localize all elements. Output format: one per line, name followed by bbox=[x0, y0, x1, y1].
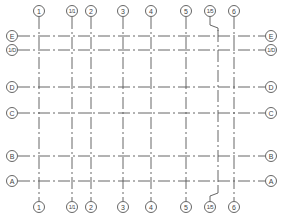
axis-label: 2 bbox=[89, 204, 93, 211]
axis-label: 1 bbox=[37, 204, 41, 211]
axis-bubble-left-d: D bbox=[7, 82, 18, 93]
axis-label: 5 bbox=[184, 8, 188, 15]
axis-bubble-top-5: 5 bbox=[181, 6, 192, 17]
axis-label: C bbox=[268, 110, 273, 117]
axis-label: 1/1 bbox=[69, 8, 76, 14]
axis-bubble-bottom-4: 4 bbox=[146, 202, 157, 213]
grid-drawing-canvas: EE1/D1/DDDCCBBAA111/11/1223344551/51/566 bbox=[0, 0, 281, 221]
axis-bubble-bottom-5: 5 bbox=[181, 202, 192, 213]
axis-bubble-right-d: D bbox=[266, 82, 277, 93]
axis-bubble-top-4: 4 bbox=[146, 6, 157, 17]
axis-label: C bbox=[9, 110, 14, 117]
axis-bubble-bottom-2: 2 bbox=[86, 202, 97, 213]
axis-bubble-left-e: E bbox=[7, 31, 18, 42]
axis-label: 3 bbox=[121, 204, 125, 211]
axis-bubble-top-2: 2 bbox=[86, 6, 97, 17]
axis-bubble-right-1-d: 1/D bbox=[266, 45, 277, 56]
axis-bubble-bottom-1-1: 1/1 bbox=[67, 202, 78, 213]
axis-label: B bbox=[10, 153, 15, 160]
axis-bubble-top-1-5: 1/5 bbox=[205, 6, 216, 17]
axis-label: 3 bbox=[121, 8, 125, 15]
vertical-grid-lines bbox=[39, 17, 234, 202]
axis-bubble-right-a: A bbox=[266, 176, 277, 187]
axis-bubble-top-1-1: 1/1 bbox=[67, 6, 78, 17]
axis-label: A bbox=[269, 178, 274, 185]
axis-bubble-bottom-3: 3 bbox=[118, 202, 129, 213]
axis-bubble-bottom-1: 1 bbox=[34, 202, 45, 213]
axis-label: 1/1 bbox=[69, 204, 76, 210]
axis-bubble-right-c: C bbox=[266, 108, 277, 119]
axis-label: 1/5 bbox=[207, 204, 214, 210]
axis-label: E bbox=[10, 33, 15, 40]
axis-bubble-left-a: A bbox=[7, 176, 18, 187]
axis-label: 4 bbox=[149, 8, 153, 15]
axis-bubble-bottom-6: 6 bbox=[229, 202, 240, 213]
axis-label: 5 bbox=[184, 204, 188, 211]
axis-label: A bbox=[10, 178, 15, 185]
axis-bubble-left-b: B bbox=[7, 151, 18, 162]
axis-bubble-left-c: C bbox=[7, 108, 18, 119]
axis-bubble-right-b: B bbox=[266, 151, 277, 162]
axis-bubble-top-3: 3 bbox=[118, 6, 129, 17]
axis-label: 1 bbox=[37, 8, 41, 15]
grid-leader-bottom-1-5 bbox=[210, 187, 218, 202]
axis-bubble-left-1-d: 1/D bbox=[7, 45, 18, 56]
axis-bubble-top-6: 6 bbox=[229, 6, 240, 17]
horizontal-grid-lines bbox=[18, 36, 265, 181]
axis-bubble-top-1: 1 bbox=[34, 6, 45, 17]
axis-label: 1/D bbox=[8, 47, 16, 53]
axis-bubble-right-e: E bbox=[266, 31, 277, 42]
axis-label: 6 bbox=[232, 204, 236, 211]
axis-label: 2 bbox=[89, 8, 93, 15]
axis-label: 6 bbox=[232, 8, 236, 15]
axis-label: 1/5 bbox=[207, 8, 214, 14]
axis-label: 1/D bbox=[267, 47, 275, 53]
axis-bubble-bottom-1-5: 1/5 bbox=[205, 202, 216, 213]
grid-leader-top-1-5 bbox=[210, 17, 218, 32]
axis-label: 4 bbox=[149, 204, 153, 211]
structural-grid-diagram: EE1/D1/DDDCCBBAA111/11/1223344551/51/566 bbox=[0, 0, 281, 221]
axis-label: D bbox=[9, 84, 14, 91]
axis-label: E bbox=[269, 33, 274, 40]
axis-label: D bbox=[268, 84, 273, 91]
axis-label: B bbox=[269, 153, 274, 160]
